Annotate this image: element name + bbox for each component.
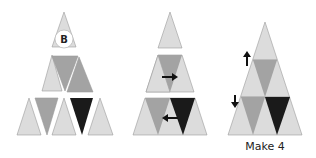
badge-label: B <box>60 34 68 45</box>
panel-1: B <box>17 12 113 135</box>
arrow-up-icon <box>243 51 251 66</box>
diagram-canvas: B <box>0 0 316 158</box>
panel-3: Make 4 <box>228 22 302 153</box>
row3-piece-5 <box>88 98 113 135</box>
panel-2 <box>133 12 207 135</box>
caption-make-4: Make 4 <box>245 140 284 153</box>
row3-block <box>133 98 207 135</box>
row1-block <box>158 12 182 48</box>
